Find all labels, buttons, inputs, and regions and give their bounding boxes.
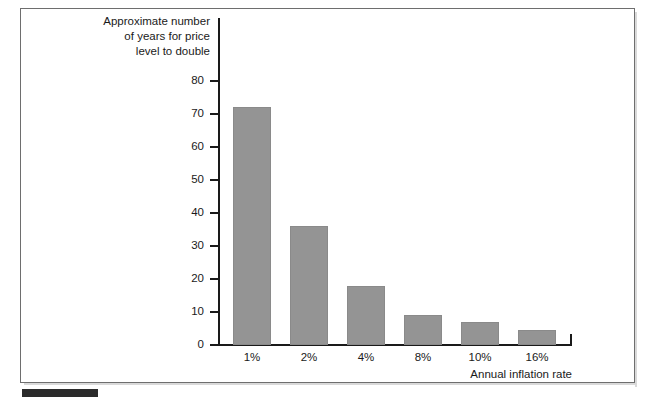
- y-axis-tick-label: 10: [168, 306, 204, 318]
- y-axis-tick: [210, 179, 218, 181]
- frame-shadow-bottom: [24, 383, 637, 385]
- x-axis-tick-label: 10%: [450, 351, 510, 363]
- x-axis-tick-label: 1%: [222, 351, 282, 363]
- x-axis-end-tick: [570, 334, 572, 346]
- y-axis-tick: [210, 311, 218, 313]
- x-axis-title: Annual inflation rate: [420, 368, 572, 380]
- y-axis-tick: [210, 113, 218, 115]
- y-axis-tick: [210, 80, 218, 82]
- y-axis-tick-label: 0: [168, 339, 204, 351]
- y-axis-tick-label: 30: [168, 240, 204, 252]
- y-axis-tick-label: 40: [168, 207, 204, 219]
- bottom-marker-bar: [22, 389, 98, 397]
- y-axis-tick-label: 60: [168, 141, 204, 153]
- y-axis-tick-label: 50: [168, 174, 204, 186]
- y-axis-tick: [210, 344, 218, 346]
- y-axis-tick-label: 20: [168, 273, 204, 285]
- y-axis-tick-label: 70: [168, 108, 204, 120]
- chart-title: Approximate number of years for price le…: [58, 14, 210, 59]
- y-axis-tick: [210, 245, 218, 247]
- bar: [233, 107, 271, 345]
- frame-shadow-right: [635, 12, 637, 387]
- bar: [347, 286, 385, 345]
- y-axis-tick-label: 80: [168, 75, 204, 87]
- x-axis-tick-label: 8%: [393, 351, 453, 363]
- y-axis-tick: [210, 278, 218, 280]
- y-axis-tick: [210, 146, 218, 148]
- x-axis-tick-label: 2%: [279, 351, 339, 363]
- x-axis-tick-label: 4%: [336, 351, 396, 363]
- bar: [461, 322, 499, 345]
- bar: [290, 226, 328, 345]
- bar: [404, 315, 442, 345]
- bar: [518, 330, 556, 345]
- x-axis-tick-label: 16%: [507, 351, 567, 363]
- y-axis-tick: [210, 212, 218, 214]
- y-axis-line: [218, 18, 220, 346]
- figure-root: Approximate number of years for price le…: [0, 0, 647, 400]
